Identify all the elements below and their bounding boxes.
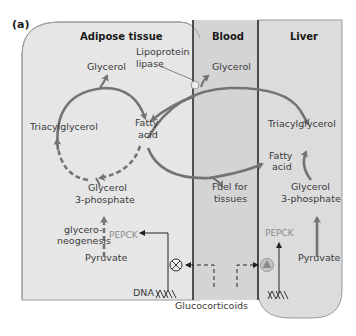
adipose-glycerol-label: Glycerol — [87, 61, 126, 72]
lipase-marker — [191, 81, 199, 89]
adipose-g3p-label-2: 3-phosphate — [75, 194, 135, 205]
blood-glycerol-label: Glycerol — [212, 61, 251, 72]
metabolic-diagram: (a) Adipose tissue Blood Liver Glycerol … — [0, 0, 356, 336]
glyceroneogenesis-label-2: neogenesis — [57, 235, 111, 246]
fuel-label-2: tissues — [214, 193, 247, 204]
liver-pepck-label: PEPCK — [265, 228, 295, 238]
inhibition-icon — [170, 259, 182, 271]
adipose-fatty-acid-label-2: acid — [138, 129, 158, 140]
adipose-dna-label: DNA — [133, 287, 154, 298]
adipose-g3p-label-1: Glycerol — [88, 182, 127, 193]
diagram-figure: (a) Adipose tissue Blood Liver Glycerol … — [0, 0, 356, 336]
glyceroneogenesis-label-1: glycero- — [64, 224, 102, 235]
adipose-header: Adipose tissue — [80, 31, 163, 42]
panel-label: (a) — [12, 18, 29, 31]
adipose-pyruvate-label: Pyruvate — [85, 252, 127, 263]
liver-g3p-label-1: Glycerol — [291, 181, 330, 192]
fuel-label-1: Fuel for — [212, 181, 248, 192]
liver-g3p-label-2: 3-phosphate — [281, 193, 341, 204]
adipose-pepck-label: PEPCK — [109, 230, 139, 240]
lipase-label-2: lipase — [136, 58, 164, 69]
blood-header: Blood — [212, 31, 244, 42]
liver-header: Liver — [290, 31, 318, 42]
liver-fatty-acid-label-1: Fatty — [269, 150, 293, 161]
liver-region — [258, 20, 342, 318]
liver-fatty-acid-label-2: acid — [272, 161, 292, 172]
liver-triacylglycerol-label: Triacylglycerol — [267, 118, 336, 129]
activation-icon — [261, 259, 274, 272]
lipase-label-1: Lipoprotein — [136, 46, 190, 57]
adipose-triacylglycerol-label: Triacylglycerol — [29, 121, 98, 132]
glucocorticoids-label: Glucocorticoids — [175, 300, 248, 311]
adipose-fatty-acid-label-1: Fatty — [135, 117, 159, 128]
liver-pyruvate-label: Pyruvate — [298, 252, 340, 263]
